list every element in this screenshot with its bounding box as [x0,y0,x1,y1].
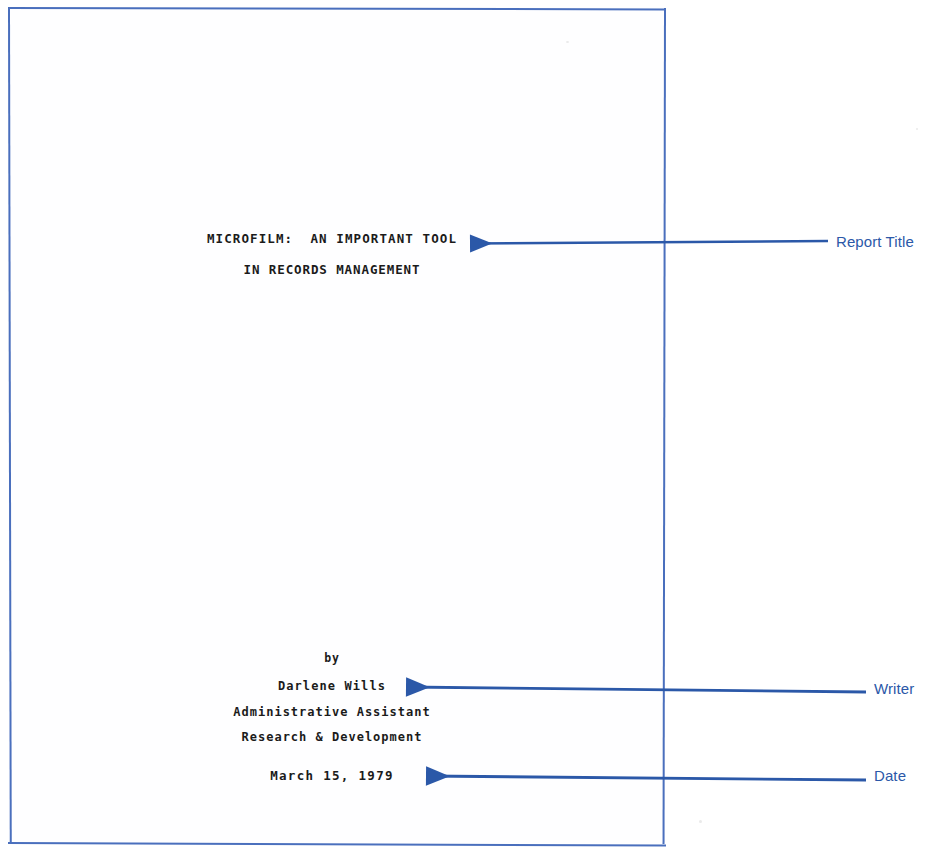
callout-label-report-title: Report Title [836,233,914,250]
report-title-line-1: MICROFILM: AN IMPORTANT TOOL [0,231,664,246]
document-scan-scene: MICROFILM: AN IMPORTANT TOOL IN RECORDS … [0,0,934,849]
report-date: March 15, 1979 [0,768,664,783]
author-job-title: Administrative Assistant [0,705,664,719]
byline-label: by [0,651,664,665]
scan-speckle [916,128,918,130]
report-title-line-2: IN RECORDS MANAGEMENT [0,262,664,277]
scan-speckle [566,41,569,43]
author-department: Research & Development [0,730,664,744]
callout-label-writer: Writer [874,680,914,697]
callout-label-date: Date [874,767,906,784]
author-name: Darlene Wills [0,679,664,693]
scan-speckle [699,820,702,823]
